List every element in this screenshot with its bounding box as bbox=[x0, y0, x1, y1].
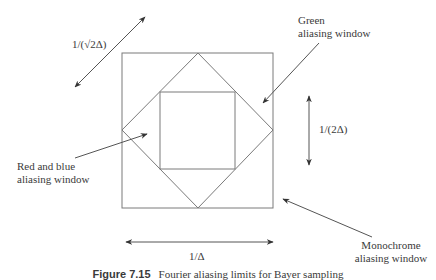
green-callout-arrow bbox=[263, 43, 319, 103]
horizontal-dimension-label: 1/Δ bbox=[189, 250, 205, 263]
diagonal-dimension-arrow bbox=[75, 17, 145, 87]
figure-caption-text: Fourier aliasing limits for Bayer sampli… bbox=[159, 268, 344, 280]
green-callout-line1: Green bbox=[298, 14, 370, 27]
red-blue-callout-arrow bbox=[75, 134, 147, 158]
diagonal-dimension-label: 1/(√2Δ) bbox=[72, 38, 107, 51]
red-blue-window-square bbox=[160, 92, 235, 169]
vertical-dimension-label: 1/(2Δ) bbox=[319, 123, 347, 136]
green-window-diamond bbox=[122, 53, 273, 208]
monochrome-callout-line2: aliasing window bbox=[350, 252, 432, 265]
figure-caption: Figure 7.15Fourier aliasing limits for B… bbox=[0, 268, 436, 280]
monochrome-callout-label: Monochrome aliasing window bbox=[350, 239, 432, 265]
monochrome-window-square bbox=[122, 53, 273, 208]
monochrome-callout-arrow bbox=[283, 199, 372, 237]
red-blue-callout-line2: aliasing window bbox=[17, 173, 89, 186]
green-callout-line2: aliasing window bbox=[298, 27, 370, 40]
figure-caption-label: Figure 7.15 bbox=[93, 268, 151, 280]
green-callout-label: Green aliasing window bbox=[298, 14, 370, 40]
red-blue-callout-label: Red and blue aliasing window bbox=[17, 160, 89, 186]
red-blue-callout-line1: Red and blue bbox=[17, 160, 89, 173]
monochrome-callout-line1: Monochrome bbox=[350, 239, 432, 252]
